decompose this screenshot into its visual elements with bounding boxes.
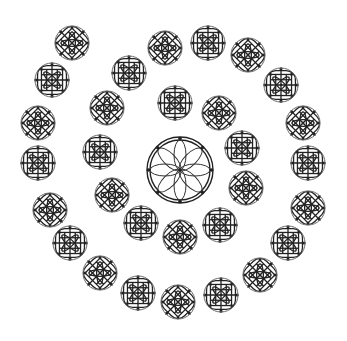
rosette-motif xyxy=(221,163,271,213)
rosette-motif xyxy=(194,88,244,138)
rosette-motif xyxy=(123,205,158,240)
rosette-motif xyxy=(140,23,190,73)
rosette-motif xyxy=(203,277,238,313)
rosette-motif xyxy=(34,62,70,98)
rosette-motif xyxy=(47,18,97,68)
rosette-motif xyxy=(223,30,273,80)
rosette-motif xyxy=(290,145,326,180)
rosette-motif xyxy=(52,225,88,261)
spiral-rosette-figure xyxy=(0,0,347,341)
rosette-motif xyxy=(82,134,118,169)
rosette-motif xyxy=(278,98,328,148)
rosette-motif xyxy=(153,277,203,327)
rosette-motif xyxy=(120,275,155,311)
rosette-motif xyxy=(157,85,192,121)
rosette-motif xyxy=(13,98,63,148)
center-rosette xyxy=(147,137,214,204)
rosette-motif xyxy=(224,130,260,165)
rosette-motif xyxy=(202,207,237,242)
rosette-motif xyxy=(270,225,306,261)
rosette-motif xyxy=(283,183,333,233)
rosette-motif xyxy=(82,83,132,133)
rosette-motif xyxy=(155,212,205,262)
rosette-motif xyxy=(75,248,125,298)
rosette-motif xyxy=(190,25,225,61)
rosette-motif xyxy=(235,250,285,300)
motif-spiral xyxy=(13,18,333,327)
rosette-motif xyxy=(111,55,146,91)
rosette-motif xyxy=(25,185,75,235)
rosette-motif xyxy=(20,145,56,180)
rosette-motif xyxy=(263,67,299,103)
